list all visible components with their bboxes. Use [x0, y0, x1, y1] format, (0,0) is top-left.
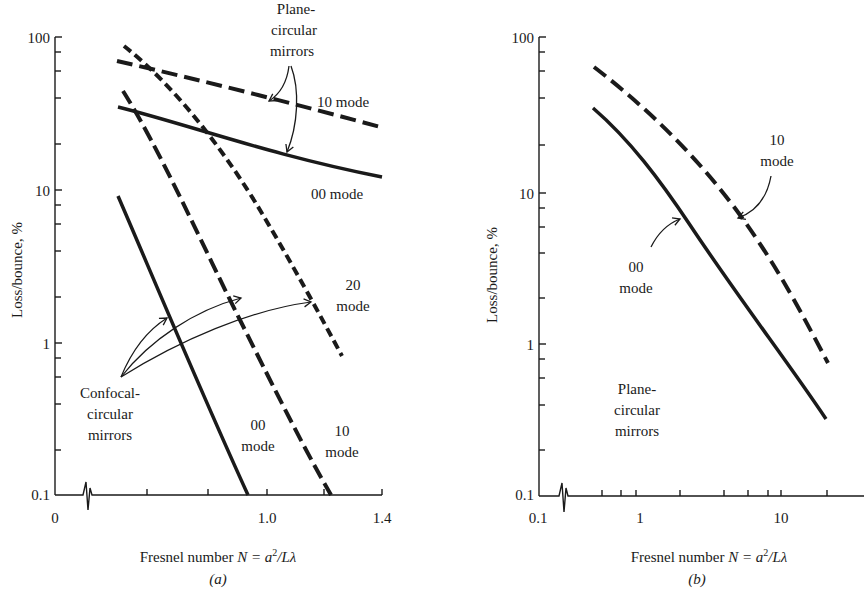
panel-a-plane-arrow-to-00 — [287, 66, 297, 152]
panel-a-caption: (a) — [209, 571, 227, 588]
panel-b-plane-label-line1: Plane- — [618, 381, 656, 397]
panel-a-confocal-10-mode-curve — [123, 91, 331, 495]
panel-b-10-mode-number: 10 — [770, 132, 785, 148]
panel-a-x-axis — [55, 482, 382, 510]
panel-b-y-tick-10: 10 — [519, 186, 534, 202]
panel-a-confocal-00-number: 00 — [251, 417, 266, 433]
panel-a-y-tick-0-1: 0.1 — [31, 487, 50, 503]
panel-b-y-tick-100: 100 — [512, 30, 535, 46]
panel-a-confocal-00-word: mode — [241, 438, 275, 454]
panel-b-x-tick-10: 10 — [774, 510, 789, 526]
panel-a-x-tick-1-4: 1.4 — [373, 510, 392, 526]
panel-b-x-tick-0-1: 0.1 — [529, 510, 548, 526]
panel-a-plane-label-line2: circular — [271, 22, 317, 38]
panel-b-caption: (b) — [688, 571, 706, 588]
panel-b: 100 10 1 0.1 0.1 1 10 Loss/bounce, % Fre… — [484, 30, 864, 588]
panel-a-confocal-10-number: 10 — [335, 423, 350, 439]
panel-a-plane-00-mode-label: 00 mode — [311, 186, 363, 202]
panel-b-00-mode-word: mode — [619, 280, 653, 296]
panel-a-confocal-10-word: mode — [325, 444, 359, 460]
panel-b-plane-label-line3: mirrors — [615, 423, 659, 439]
panel-b-00-mode-arrow — [651, 219, 680, 247]
panel-a-20-mode-word: mode — [336, 298, 370, 314]
panel-a-y-axis — [55, 37, 62, 495]
panel-b-plane-label-line2: circular — [614, 402, 660, 418]
panel-b-00-mode-number: 00 — [629, 259, 644, 275]
panel-a-x-tick-0: 0 — [51, 510, 59, 526]
panel-a-y-tick-100: 100 — [28, 30, 51, 46]
panel-a-plane-label-line1: Plane- — [277, 1, 315, 17]
panel-a-20-mode-number: 20 — [346, 277, 361, 293]
panel-b-y-axis — [539, 37, 546, 496]
panel-a-x-axis-title: Fresnel number N = a2/Lλ — [140, 547, 297, 565]
panel-a-confocal-arrow-to-20 — [121, 302, 311, 377]
panel-a-plane-arrow-to-10 — [269, 66, 289, 101]
panel-a: 100 10 1 0.1 0 1.0 1.4 Loss/bounce, % Fr… — [9, 1, 392, 588]
panel-b-x-axis — [539, 483, 864, 512]
panel-a-confocal-label-line1: Confocal- — [80, 385, 140, 401]
panel-b-10-mode-word: mode — [760, 153, 794, 169]
panel-b-y-tick-1: 1 — [527, 337, 535, 353]
panel-b-x-axis-title: Fresnel number N = a2/Lλ — [631, 547, 788, 565]
panel-a-x-tick-1-0: 1.0 — [258, 510, 277, 526]
panel-a-y-tick-10: 10 — [35, 183, 50, 199]
panel-b-10-mode-arrow — [738, 176, 771, 218]
figure: 100 10 1 0.1 0 1.0 1.4 Loss/bounce, % Fr… — [0, 0, 864, 594]
panel-a-confocal-arrow-to-10 — [121, 298, 241, 377]
panel-a-confocal-label-line3: mirrors — [88, 427, 132, 443]
panel-b-y-tick-0-1: 0.1 — [515, 487, 534, 503]
panel-b-10-mode-curve — [594, 67, 828, 363]
panel-b-x-tick-1: 1 — [636, 510, 644, 526]
panel-a-confocal-label-line2: circular — [87, 406, 133, 422]
panel-b-y-axis-title: Loss/bounce, % — [484, 227, 500, 323]
panel-a-plane-10-mode-label: 10 mode — [317, 94, 369, 110]
panel-a-y-tick-1: 1 — [43, 336, 51, 352]
panel-a-plane-label-line3: mirrors — [270, 43, 314, 59]
panel-a-y-axis-title: Loss/bounce, % — [9, 222, 25, 318]
